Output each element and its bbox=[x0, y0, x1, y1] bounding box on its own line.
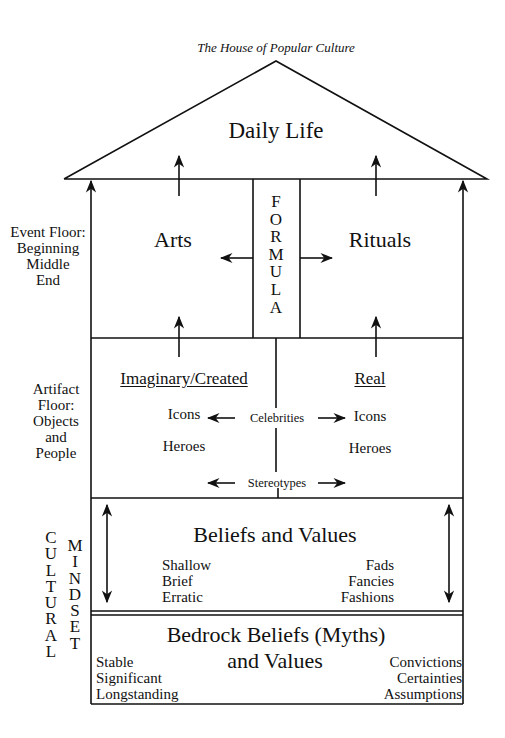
side-label-line: and bbox=[18, 429, 94, 445]
imaginary-created-heading: Imaginary/Created bbox=[104, 370, 264, 387]
bedrock-left-list: Stable Significant Longstanding bbox=[96, 654, 179, 702]
formula-letter: F bbox=[266, 193, 286, 211]
roof-label: Daily Life bbox=[176, 119, 376, 142]
list-item: Fashions bbox=[341, 589, 394, 605]
real-icons: Icons bbox=[340, 409, 400, 424]
rituals-label: Rituals bbox=[330, 229, 430, 251]
list-item: Certainties bbox=[384, 670, 462, 686]
mindset-letter: L bbox=[41, 644, 61, 660]
side-label-line: Beginning bbox=[2, 240, 94, 256]
formula-letter: U bbox=[266, 263, 286, 281]
side-label-line: Middle bbox=[2, 256, 94, 272]
formula-letter: R bbox=[266, 228, 286, 246]
side-label-line: Artifact bbox=[18, 381, 94, 397]
real-heading: Real bbox=[335, 370, 405, 387]
list-item: Shallow bbox=[162, 557, 211, 573]
imaginary-heroes: Heroes bbox=[154, 439, 214, 454]
beliefs-values-heading: Beliefs and Values bbox=[160, 524, 390, 546]
beliefs-left-list: Shallow Brief Erratic bbox=[162, 557, 211, 605]
diagram-title: The House of Popular Culture bbox=[176, 41, 376, 54]
formula-column-label: F O R M U L A bbox=[266, 193, 286, 316]
formula-letter: M bbox=[266, 246, 286, 264]
mindset-letter: T bbox=[65, 636, 85, 652]
side-label-line: Floor: bbox=[18, 397, 94, 413]
bedrock-heading-line1: Bedrock Beliefs (Myths) bbox=[140, 624, 412, 646]
list-item: Erratic bbox=[162, 589, 211, 605]
real-heroes: Heroes bbox=[340, 441, 400, 456]
side-label-line: End bbox=[2, 272, 94, 288]
cultural-vertical-label: C U L T U R A L bbox=[41, 530, 61, 660]
arts-label: Arts bbox=[128, 229, 218, 251]
mindset-vertical-label: M I N D S E T bbox=[65, 538, 85, 652]
bedrock-heading-line2: and Values bbox=[190, 650, 360, 672]
list-item: Fads bbox=[341, 557, 394, 573]
list-item: Longstanding bbox=[96, 686, 179, 702]
list-item: Assumptions bbox=[384, 686, 462, 702]
list-item: Fancies bbox=[341, 573, 394, 589]
artifact-floor-side-label: Artifact Floor: Objects and People bbox=[18, 381, 94, 461]
side-label-line: Event Floor: bbox=[2, 224, 94, 240]
list-item: Brief bbox=[162, 573, 211, 589]
side-label-line: Objects bbox=[18, 413, 94, 429]
celebrities-label: Celebrities bbox=[236, 412, 318, 425]
imaginary-icons: Icons bbox=[154, 407, 214, 422]
stereotypes-label: Stereotypes bbox=[236, 477, 318, 490]
beliefs-right-list: Fads Fancies Fashions bbox=[341, 557, 394, 605]
formula-letter: L bbox=[266, 281, 286, 299]
list-item: Stable bbox=[96, 654, 179, 670]
event-floor-side-label: Event Floor: Beginning Middle End bbox=[2, 224, 94, 288]
list-item: Significant bbox=[96, 670, 179, 686]
side-label-line: People bbox=[18, 445, 94, 461]
formula-letter: A bbox=[266, 299, 286, 317]
formula-letter: O bbox=[266, 211, 286, 229]
bedrock-right-list: Convictions Certainties Assumptions bbox=[384, 654, 462, 702]
list-item: Convictions bbox=[384, 654, 462, 670]
